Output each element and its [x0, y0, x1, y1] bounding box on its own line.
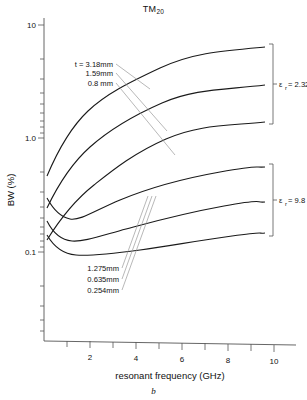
label-t-0.635mm: 0.635mm	[87, 275, 119, 284]
upper-annotations: t = 3.18mm 1.59mm 0.8 mm	[75, 60, 113, 88]
curve-t-0.8mm	[47, 122, 265, 240]
y-tick-label-10: 10	[27, 21, 36, 30]
y-axis-ticks: 10 1.0 0.1	[25, 21, 44, 257]
curve-t-0.254mm	[47, 233, 265, 255]
figure-caption: b	[0, 386, 307, 396]
lower-annotations: 1.275mm 0.635mm 0.254mm	[87, 264, 119, 295]
y-tick-label-1: 1.0	[25, 134, 37, 143]
y-axis-title: BW (%)	[5, 174, 16, 207]
figure-panel: TM20 10 1.0 0.1	[0, 0, 307, 400]
upper-leader-lines	[116, 64, 175, 155]
eps-upper-value: = 2.32	[288, 80, 307, 89]
curve-group-er-2-32	[47, 47, 265, 240]
label-t-3.18mm: t = 3.18mm	[75, 60, 113, 69]
x-axis-ticks: 2 4 6 8 10	[67, 341, 279, 366]
x-tick-label-10: 10	[270, 357, 279, 366]
eps-lower-subscript: r	[285, 201, 287, 207]
y-tick-label-0.1: 0.1	[25, 248, 37, 257]
y-axis-minor-ticks	[40, 59, 44, 331]
label-t-0.8mm: 0.8 mm	[88, 79, 113, 88]
eps-upper-subscript: r	[285, 85, 287, 91]
x-tick-label-6: 6	[180, 355, 185, 364]
x-tick-label-8: 8	[226, 356, 231, 365]
curve-t-0.635mm	[47, 201, 265, 241]
eps-lower-symbol: ε	[279, 196, 283, 205]
x-axis-title: resonant frequency (GHz)	[115, 370, 224, 381]
lower-leader-lines	[122, 196, 156, 290]
x-tick-label-2: 2	[88, 353, 93, 362]
curve-t-1.275mm	[47, 167, 265, 219]
label-t-1.275mm: 1.275mm	[87, 264, 119, 273]
eps-lower-value: = 9.8	[288, 196, 305, 205]
curve-group-er-9-8	[47, 167, 265, 255]
x-tick-label-4: 4	[134, 354, 139, 363]
curve-t-1.59mm	[47, 85, 265, 208]
eps-upper-symbol: ε	[279, 80, 283, 89]
label-t-0.254mm: 0.254mm	[87, 286, 119, 295]
bracket-er-2-32: ε r = 2.32	[269, 44, 307, 124]
x-axis-line	[44, 341, 296, 345]
bracket-er-9-8: ε r = 9.8	[269, 164, 305, 236]
chart-svg: 10 1.0 0.1	[0, 0, 307, 400]
label-t-1.59mm: 1.59mm	[86, 69, 113, 78]
